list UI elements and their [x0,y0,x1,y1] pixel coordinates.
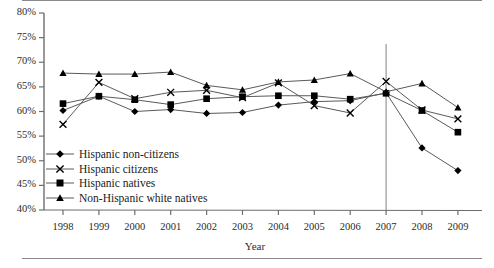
chart-series-hispanic-natives [60,90,462,136]
x-axis-tick-label: 2004 [258,221,298,232]
x-axis-tick-label: 2007 [366,221,406,232]
y-axis-tick-label: 45% [2,178,36,189]
legend-item-label: Hispanic natives [79,176,155,190]
x-axis-tick-label: 1999 [79,221,119,232]
x-axis-title: Year [215,240,295,252]
y-axis-tick-label: 65% [2,80,36,91]
legend-marker-x-icon [45,162,75,176]
y-axis-tick-label: 55% [2,129,36,140]
chart-series-non-hispanic-white-natives [59,69,461,111]
x-axis-tick-label: 2005 [294,221,334,232]
y-axis-tick-label: 80% [2,6,36,17]
y-axis-tick-label: 75% [2,31,36,42]
x-axis-tick-label: 2003 [223,221,263,232]
legend-item-label: Hispanic citizens [79,162,158,176]
legend-item: Non-Hispanic white natives [45,191,207,206]
y-axis-tick-label: 60% [2,105,36,116]
y-axis-tick-label: 40% [2,203,36,214]
legend-item-label: Non-Hispanic white natives [79,191,207,205]
legend-item: Hispanic natives [45,176,207,191]
x-axis-tick-label: 1998 [43,221,83,232]
legend-item: Hispanic non-citizens [45,147,207,162]
chart-legend: Hispanic non-citizensHispanic citizensHi… [45,147,207,205]
x-axis-tick-label: 2002 [187,221,227,232]
x-axis-tick-label: 2009 [438,221,478,232]
x-axis-tick-label: 2001 [151,221,191,232]
legend-item-label: Hispanic non-citizens [79,147,179,161]
x-axis-tick-label: 2000 [115,221,155,232]
chart-figure: 80%75%70%65%60%55%50%45%40% 199819992000… [0,0,494,268]
legend-item: Hispanic citizens [45,162,207,177]
legend-marker-square-icon [45,176,75,190]
legend-marker-diamond-icon [45,147,75,161]
x-axis-tick-label: 2008 [402,221,442,232]
legend-marker-triangle-icon [45,191,75,205]
x-axis-tick-label: 2006 [330,221,370,232]
y-axis-tick-label: 70% [2,55,36,66]
y-axis-tick-label: 50% [2,154,36,165]
